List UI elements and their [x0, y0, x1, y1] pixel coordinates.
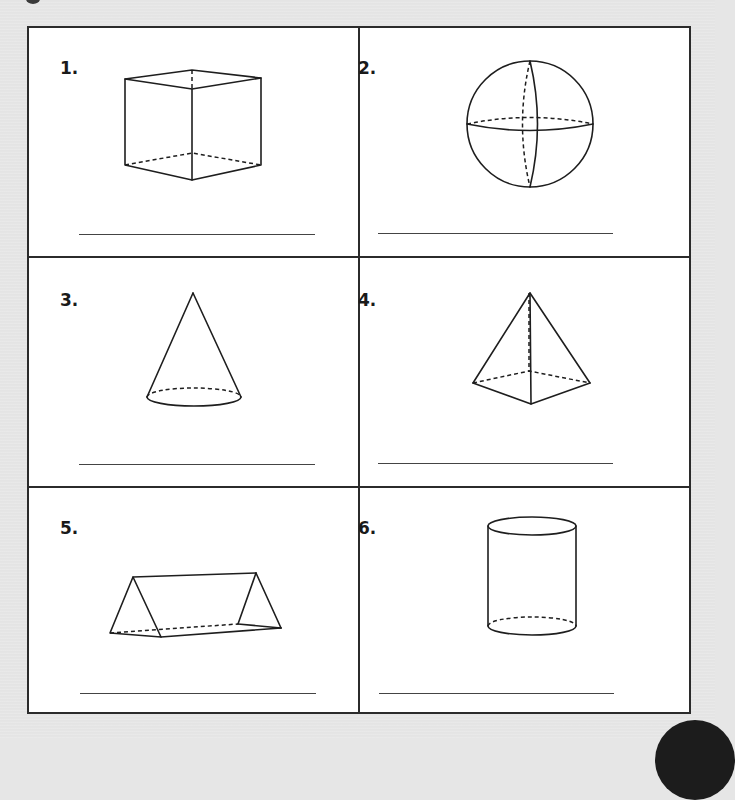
cell-3: 3. — [29, 258, 358, 486]
corner-badge — [655, 720, 735, 800]
cell-number: 3. — [60, 290, 78, 310]
cell-number: 1. — [60, 58, 78, 78]
answer-line-3[interactable] — [79, 464, 315, 465]
answer-line-5[interactable] — [80, 693, 316, 694]
cell-1: 1. — [29, 28, 358, 256]
cell-number: 6. — [358, 518, 376, 538]
cell-2: 2. — [360, 28, 691, 256]
shape-worksheet: 1. 2. 3. 4. 5. 6. — [27, 26, 691, 714]
cell-6: 6. — [360, 488, 691, 714]
cell-5: 5. — [29, 488, 358, 714]
answer-line-6[interactable] — [379, 693, 614, 694]
answer-line-2[interactable] — [378, 233, 613, 234]
cell-4: 4. — [360, 258, 691, 486]
answer-line-1[interactable] — [79, 234, 315, 235]
cell-number: 4. — [358, 290, 376, 310]
cell-number: 2. — [358, 58, 376, 78]
answer-line-4[interactable] — [378, 463, 613, 464]
cell-number: 5. — [60, 518, 78, 538]
